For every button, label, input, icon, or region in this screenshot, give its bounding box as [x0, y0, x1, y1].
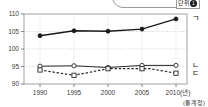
xtick-label-1990: 1990	[33, 89, 48, 96]
series-a-point-2010	[174, 17, 178, 21]
series-c-point-1995	[72, 73, 76, 77]
series-b-point-1995	[72, 64, 76, 68]
line-chart-plot: 90 95 100 105 110 1990 1995 2000 2005 20…	[0, 0, 208, 107]
xtick-label-2000: 2000	[101, 89, 116, 96]
series-a-point-2000	[106, 29, 110, 33]
series-c-point-1990	[38, 68, 42, 72]
xtick-label-1995: 1995	[67, 89, 82, 96]
series-a-label: ㄱ	[192, 14, 199, 23]
series-c-point-2010	[174, 71, 178, 75]
x-axis-ticks	[40, 84, 176, 87]
xtick-label-2005: 2005	[135, 89, 150, 96]
series-a-point-1990	[38, 34, 42, 38]
ytick-label-100: 100	[8, 45, 19, 52]
ytick-label-90: 90	[12, 80, 20, 87]
y-axis-ticks	[21, 14, 24, 84]
series-a-point-2005	[140, 27, 144, 31]
ytick-label-95: 95	[12, 63, 20, 70]
series-a-point-1995	[72, 29, 76, 33]
ytick-label-105: 105	[8, 28, 19, 35]
chart-source: (통계청)	[183, 98, 205, 107]
series-c-label: ㄷ	[192, 69, 199, 78]
chart-figure: 단위1 90 95 100 105	[0, 0, 208, 107]
series-c-point-2000	[106, 67, 110, 71]
xtick-label-2010: 2010(년)	[166, 88, 191, 97]
series-b-point-2010	[174, 63, 178, 67]
ytick-label-110: 110	[9, 10, 20, 17]
series-c-point-2005	[140, 67, 144, 71]
